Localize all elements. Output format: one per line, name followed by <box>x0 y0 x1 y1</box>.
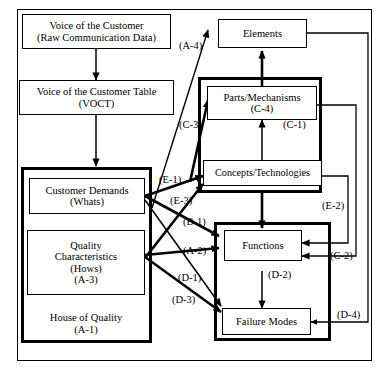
quality-line4: (A-3) <box>74 274 97 285</box>
box-quality-characteristics: Quality Characteristics (Hows) (A-3) <box>27 230 145 295</box>
edge-label-a4: (A-4) <box>179 40 202 51</box>
edge-label-d1: (D-1) <box>178 272 201 283</box>
hoq-line2: (A-1) <box>27 324 145 336</box>
caption-house-of-quality: House of Quality (A-1) <box>27 312 145 335</box>
quality-line1: Quality <box>70 240 102 251</box>
functions-line1: Functions <box>242 240 283 251</box>
quality-line3: (Hows) <box>70 263 102 274</box>
box-voice-of-customer: Voice of the Customer (Raw Communication… <box>22 14 171 49</box>
diagram-canvas: Voice of the Customer (Raw Communication… <box>0 0 382 374</box>
voc-line1: Voice of the Customer <box>50 20 144 31</box>
edge-label-d3: (D-3) <box>172 294 195 305</box>
box-elements: Elements <box>218 19 307 48</box>
edge-label-d2: (D-2) <box>268 269 291 280</box>
box-concepts-technologies: Concepts/Technologies <box>203 160 322 186</box>
edge-label-c2: (C-2) <box>330 250 353 261</box>
demands-line2: (Whats) <box>70 196 104 207</box>
edge-label-e3: (E-3) <box>170 195 192 206</box>
parts-line2: (C-4) <box>251 103 274 114</box>
concepts-line1: Concepts/Technologies <box>215 168 310 179</box>
edge-label-c3: (C-3) <box>179 119 202 130</box>
voct-line1: Voice of the Customer Table <box>37 86 157 97</box>
box-parts-mechanisms: Parts/Mechanisms (C-4) <box>207 86 317 120</box>
edge-label-a2: (A-2) <box>183 245 206 256</box>
edge-label-d4: (D-4) <box>337 309 360 320</box>
edge-label-c1: (C-1) <box>283 119 306 130</box>
box-voct: Voice of the Customer Table (VOCT) <box>19 80 174 115</box>
parts-line1: Parts/Mechanisms <box>224 92 301 103</box>
failure-line1: Failure Modes <box>236 316 297 327</box>
elements-line1: Elements <box>243 28 282 39</box>
quality-line2: Characteristics <box>55 251 117 262</box>
voc-line2: (Raw Communication Data) <box>37 32 156 43</box>
voct-line2: (VOCT) <box>79 98 115 109</box>
edge-label-e1: (E-1) <box>159 174 181 185</box>
demands-line1: Customer Demands <box>45 185 128 196</box>
edge-label-e2: (E-2) <box>322 200 344 211</box>
box-functions: Functions <box>224 230 302 261</box>
hoq-line1: House of Quality <box>27 312 145 324</box>
box-customer-demands: Customer Demands (Whats) <box>29 178 145 214</box>
box-failure-modes: Failure Modes <box>222 308 311 335</box>
edge-label-b1: (B-1) <box>183 216 206 227</box>
